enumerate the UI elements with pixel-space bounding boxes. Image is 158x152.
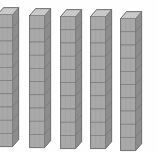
rod-cube-front <box>61 30 76 43</box>
rod-cube-front <box>61 135 76 148</box>
rod-cube-front <box>121 58 136 71</box>
rod-cube-front <box>30 16 45 29</box>
rod-cube-front <box>91 69 106 82</box>
rod-cube-front <box>61 109 76 122</box>
rod-cube-front <box>0 54 13 67</box>
base-ten-rod[interactable] <box>120 11 143 152</box>
rod-cube-front <box>91 43 106 56</box>
rod-cube-front <box>91 135 106 148</box>
base-ten-rod[interactable] <box>29 8 52 149</box>
rod-cube-front <box>0 28 13 41</box>
rod-cube-front <box>91 83 106 96</box>
rod-cube-front <box>61 56 76 69</box>
rod-cube-front <box>121 124 136 137</box>
rod-cube-front <box>61 17 76 30</box>
rod-cube-front <box>121 71 136 84</box>
rod-cube-front <box>121 111 136 124</box>
rod-cube-front <box>30 42 45 55</box>
base-ten-rod[interactable] <box>90 9 113 150</box>
rod-cube-front <box>30 68 45 81</box>
rod-graphic <box>60 9 83 150</box>
rod-cube-front <box>0 81 13 94</box>
rod-cube-front <box>121 32 136 45</box>
rod-cube-front <box>61 96 76 109</box>
rod-cube-front <box>0 94 13 107</box>
rod-cube-front <box>30 82 45 95</box>
rod-graphic <box>29 8 52 149</box>
rod-cube-front <box>91 109 106 122</box>
rod-cube-front <box>0 120 13 133</box>
rod-cube-front <box>121 137 136 150</box>
rod-graphic <box>120 11 143 152</box>
rod-cube-front <box>0 41 13 54</box>
base-ten-rod[interactable] <box>60 9 83 150</box>
rod-cube-front <box>0 133 13 146</box>
rod-cube-front <box>91 122 106 135</box>
rod-cube-front <box>30 134 45 147</box>
rod-cube-front <box>30 95 45 108</box>
rod-cube-front <box>91 96 106 109</box>
rod-cube-front <box>0 15 13 28</box>
rod-cube-front <box>61 122 76 135</box>
rod-cube-front <box>0 67 13 80</box>
rod-cube-front <box>91 56 106 69</box>
rod-graphic <box>0 7 20 148</box>
rod-cube-front <box>91 30 106 43</box>
rod-cube-front <box>121 98 136 111</box>
rod-cube-front <box>30 121 45 134</box>
rod-cube-front <box>121 19 136 32</box>
rod-cube-front <box>61 69 76 82</box>
rod-cube-front <box>30 108 45 121</box>
rod-cube-front <box>91 17 106 30</box>
rod-cube-front <box>121 45 136 58</box>
rod-cube-front <box>30 55 45 68</box>
rod-cube-front <box>61 83 76 96</box>
rod-cube-front <box>61 43 76 56</box>
rod-cube-front <box>0 107 13 120</box>
rod-cube-front <box>30 29 45 42</box>
rod-graphic <box>90 9 113 150</box>
base-ten-rods-canvas <box>0 0 158 152</box>
rod-cube-front <box>121 85 136 98</box>
base-ten-rod[interactable] <box>0 7 20 148</box>
